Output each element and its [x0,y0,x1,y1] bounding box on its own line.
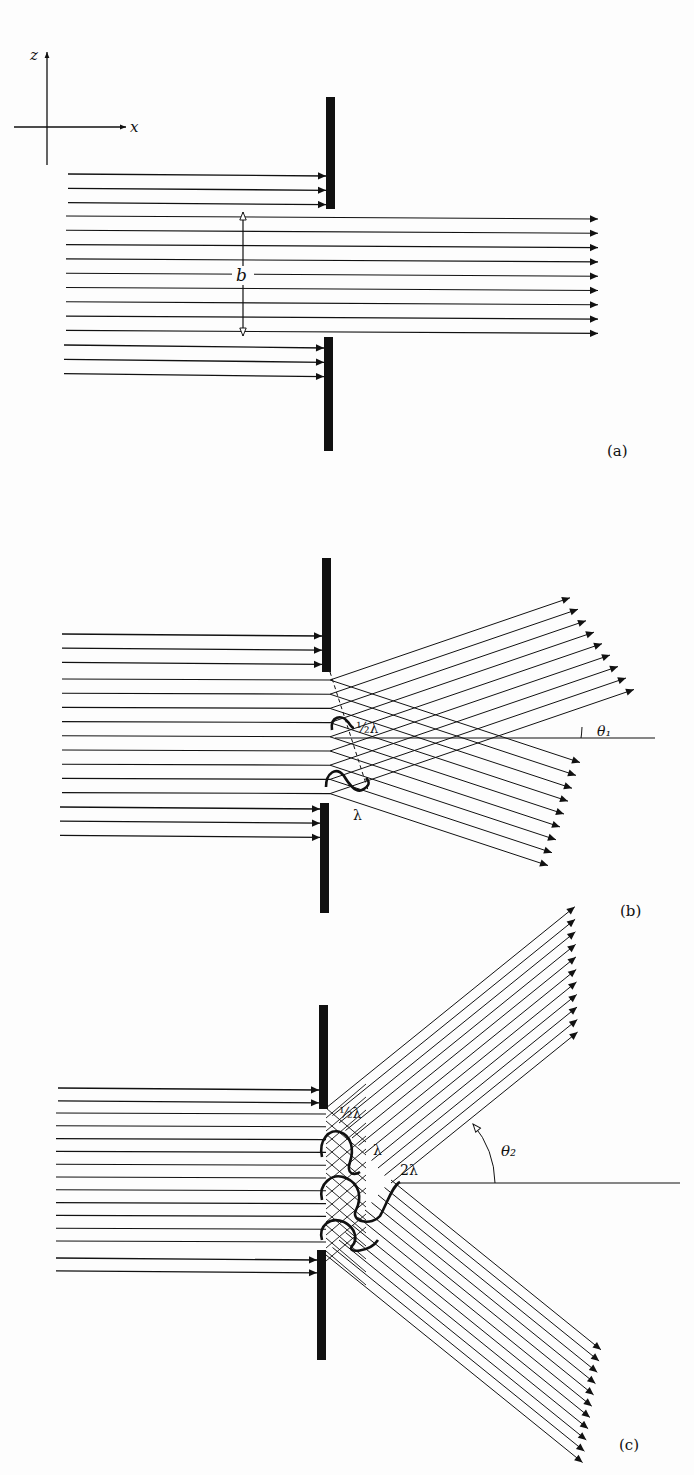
ray-line [333,1248,585,1452]
panel-c-caption: (c) [619,1436,639,1454]
ray-line [62,764,330,765]
ray-line [64,374,324,377]
ray-line [346,944,576,1130]
lower-slit-barrier [317,1250,326,1360]
ray-line [60,821,320,823]
theta-2-label: θ₂ [501,1142,516,1160]
ray-line [56,1139,326,1140]
ray-line [330,765,556,840]
ray-line [359,1218,592,1407]
ray-line [333,919,576,1115]
ray-line [64,359,324,362]
diffraction-figure: z x b (a) ½λ λ θ₁ (b) [0,0,694,1475]
ray-line [62,722,330,723]
half-wavelength-label: ½λ [356,720,379,736]
coordinate-axes: z x [14,46,139,165]
ray-line [326,1201,366,1235]
x-axis-label: x [130,118,139,136]
ray-line [352,1225,590,1417]
ray-line [330,737,564,814]
ray-line [56,1241,326,1242]
ray-line [326,1255,583,1463]
lower-slit-barrier [324,337,333,451]
ray-line [56,1228,326,1229]
ray-line [62,707,330,708]
wavelength-label: λ [373,1142,382,1158]
ray-line [56,1215,326,1216]
ray-line [64,345,324,348]
ray-line [66,245,598,248]
wavelength-label: λ [353,807,362,823]
ray-line [56,1151,326,1152]
ray-line [359,969,577,1145]
ray-line [339,1240,586,1440]
z-axis-label: z [29,46,38,64]
ray-line [68,188,326,190]
ray-line [365,1210,594,1395]
ray-line [66,302,598,305]
panel-b: ½λ λ θ₁ (b) [60,558,655,920]
theta-2-arc [473,1124,495,1183]
theta-1-label: θ₁ [597,723,611,739]
ray-line [385,1188,600,1362]
ray-line [60,835,320,837]
ray-line [66,216,598,219]
two-wavelength-label: 2λ [400,1162,418,1178]
ray-line [330,689,634,793]
ray-line [326,1175,366,1209]
upper-slit-barrier [319,1005,328,1109]
lower-slit-barrier [320,803,329,913]
ray-line [378,1195,597,1372]
ray-line [372,994,577,1160]
ray-line [346,1233,589,1429]
slit-width-label: b [236,265,247,285]
half-wavelength-label: ½λ [339,1105,362,1121]
ray-line [66,330,598,333]
ray-line [56,1203,326,1204]
ray-line [62,679,330,680]
ray-line [326,1123,366,1157]
theta-1-arc [581,727,582,738]
wave-curve-upper [321,1131,360,1174]
incident-and-diffracted-rays [56,907,601,1463]
panel-a: b (a) [64,97,628,460]
ray-line [56,1164,326,1165]
ray-line [378,1007,577,1168]
upper-slit-barrier [326,97,335,209]
ray-line [62,778,330,779]
incident-and-diffracted-rays [60,598,634,866]
upper-slit-barrier [322,558,331,672]
ray-line [66,273,598,276]
ray-line [66,288,598,291]
ray-line [66,259,598,262]
ray-line [68,174,326,176]
ray-line [56,1126,326,1127]
ray-line [56,1190,326,1191]
ray-line [385,1020,578,1176]
ray-line [391,1180,601,1350]
ray-line [66,316,598,319]
ray-line [56,1177,326,1178]
ray-line [60,807,320,809]
ray-line [62,662,322,664]
ray-line [330,667,618,766]
ray-line [56,1113,326,1114]
ray-line [330,655,610,751]
ray-line [330,794,548,866]
ray-line [62,793,330,794]
ray-line [62,750,330,751]
ray-line [326,907,575,1108]
ray-line [62,693,330,694]
ray-line [62,736,330,737]
ray-line [56,1271,317,1273]
ray-line [391,1032,578,1183]
ray-line [330,632,594,722]
ray-line [68,203,326,205]
ray-line [330,609,578,694]
ray-line [58,1101,319,1103]
ray-line [66,230,598,233]
ray-line [58,1088,319,1090]
panel-a-caption: (a) [607,442,628,460]
ray-line [326,1136,366,1170]
ray-line [339,932,575,1123]
